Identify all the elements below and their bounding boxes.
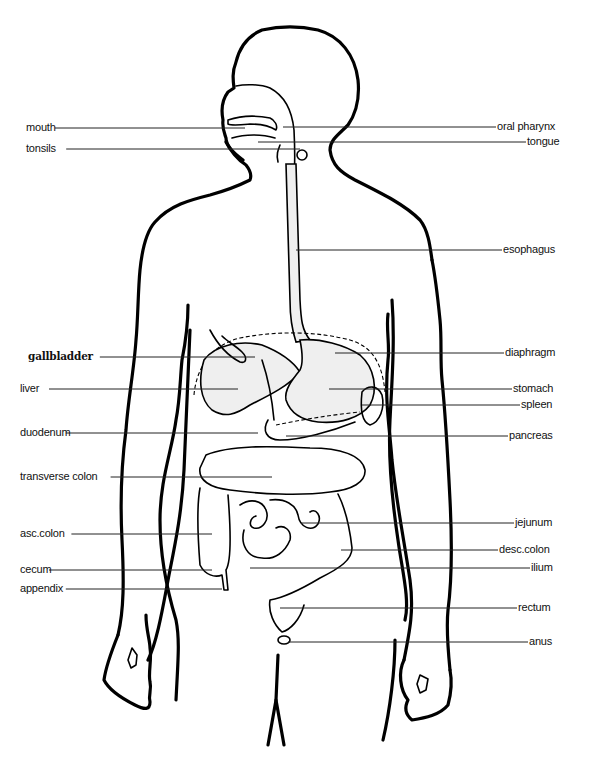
- label-liver: liver: [20, 382, 39, 395]
- abdomen-organs: [194, 330, 385, 440]
- label-gallbladder: gallbladder: [28, 350, 93, 363]
- label-ilium: ilium: [531, 561, 553, 574]
- anus-shape: [278, 636, 290, 644]
- left-arm-inner: [160, 305, 188, 700]
- intestines: [198, 447, 365, 644]
- right-palm-mark: [417, 675, 428, 693]
- leg-inner: [276, 700, 284, 745]
- label-spleen: spleen: [521, 398, 552, 411]
- label-jejunum: jejunum: [515, 516, 552, 529]
- liver-shape: [201, 343, 300, 414]
- uvula: [277, 145, 280, 162]
- duodenum-loop: [265, 420, 355, 440]
- head-organs: [228, 85, 310, 342]
- leg-right: [383, 640, 395, 740]
- label-anus: anus: [529, 635, 552, 648]
- label-diaphragm: diaphragm: [505, 346, 555, 359]
- torso-left-side: [148, 330, 190, 660]
- label-tongue: tongue: [527, 135, 559, 148]
- label-rectum: rectum: [518, 601, 550, 614]
- digestive-system-figure: [0, 0, 593, 770]
- epiglottis-mark: [297, 150, 307, 160]
- label-tonsils: tonsils: [26, 142, 56, 155]
- label-pancreas: pancreas: [509, 429, 553, 442]
- left-palm-mark: [128, 648, 137, 668]
- label-duodenum: duodenum: [20, 426, 70, 439]
- label-desc-colon: desc.colon: [499, 543, 550, 556]
- ascending-colon-shape: [198, 488, 230, 590]
- label-stomach: stomach: [513, 382, 553, 395]
- esophagus-tube: [286, 164, 310, 342]
- transverse-colon-shape: [200, 447, 365, 494]
- label-asc-colon: asc.colon: [20, 527, 65, 540]
- label-oral-pharynx: oral pharynx: [497, 120, 555, 133]
- left-hand: [104, 615, 151, 708]
- descending-colon-shape: [270, 494, 352, 632]
- head-outline: [222, 27, 432, 260]
- label-cecum: cecum: [20, 563, 51, 576]
- label-transverse-colon: transverse colon: [20, 470, 98, 483]
- small-intestine-coils: [240, 500, 319, 559]
- label-esophagus: esophagus: [503, 243, 555, 256]
- label-mouth: mouth: [26, 121, 56, 134]
- tongue-shape: [232, 135, 275, 138]
- label-appendix: appendix: [20, 582, 63, 595]
